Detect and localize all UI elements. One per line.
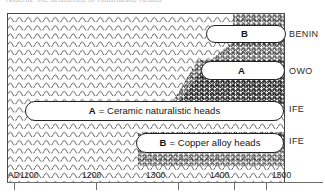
x-axis-tick-label: 1400 [210, 170, 229, 180]
x-axis-tick [178, 183, 179, 190]
period-pill-owo-a: A [201, 61, 285, 80]
chronology-chart-figure: Nigeria: the sequence of naturalistic he… [0, 0, 325, 196]
x-axis-tick-label: 1200 [82, 170, 101, 180]
legend-pill-ceramic-heads: A = Ceramic naturalistic heads [25, 101, 284, 121]
x-axis-tick [14, 183, 15, 190]
figure-caption: Nigeria: the sequence of naturalistic he… [6, 0, 162, 2]
pill-text: = Ceramic naturalistic heads [99, 106, 221, 116]
x-axis-tick [266, 183, 267, 190]
legend-pill-copper-alloy-heads: B = Copper alloy heads [136, 133, 284, 153]
x-axis-line [7, 182, 323, 183]
x-axis-tick [234, 183, 235, 190]
pill-letter: A [238, 66, 245, 76]
row-label-ife-upper: IFE [289, 104, 304, 114]
row-label-ife-lower: IFE [289, 136, 304, 146]
pill-letter: B [241, 29, 248, 39]
x-axis-tick [96, 183, 97, 190]
row-label-benin: BENIN [289, 29, 319, 39]
row-label-owo: OWO [289, 66, 313, 76]
pill-letter: A [89, 106, 96, 116]
x-axis-tick-label: AD1100 [8, 170, 39, 180]
x-axis-tick-label: 1500 [272, 170, 291, 180]
pill-text: = Copper alloy heads [169, 138, 260, 148]
pill-letter: B [160, 138, 167, 148]
period-pill-benin-b: B [206, 25, 286, 43]
x-axis-tick-label: 1300 [146, 170, 165, 180]
